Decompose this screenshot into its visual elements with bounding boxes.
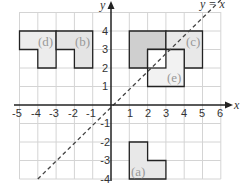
svg-text:-3: -3 — [100, 154, 110, 166]
svg-text:3: 3 — [102, 43, 108, 55]
svg-text:-4: -4 — [100, 173, 110, 185]
svg-text:4: 4 — [181, 107, 187, 119]
svg-text:-4: -4 — [31, 107, 41, 119]
svg-text:5: 5 — [199, 107, 205, 119]
shape-b-label: (b) — [75, 34, 90, 49]
svg-text:-1: -1 — [86, 107, 96, 119]
x-tick-labels: -5 -4 -3 -2 -1 1 2 3 4 5 6 — [12, 107, 223, 119]
x-axis-label: x — [233, 98, 240, 112]
shape-a-label: (a) — [131, 164, 145, 179]
svg-text:2: 2 — [102, 62, 108, 74]
svg-text:3: 3 — [163, 107, 169, 119]
shape-c-label: (c) — [186, 34, 200, 49]
svg-text:-3: -3 — [49, 107, 59, 119]
svg-text:1: 1 — [102, 80, 108, 92]
svg-text:-1: -1 — [100, 117, 110, 129]
y-axis-label: y — [99, 0, 106, 12]
svg-text:-5: -5 — [12, 107, 22, 119]
shape-d-label: (d) — [38, 34, 53, 49]
mirror-line-label: y = x — [199, 0, 225, 11]
svg-text:4: 4 — [102, 25, 108, 37]
shape-b: (b) — [56, 31, 93, 68]
coordinate-grid-diagram: (d) (b) (c) (e) (a) y = x x y -5 -4 — [0, 0, 240, 188]
svg-text:1: 1 — [127, 107, 133, 119]
svg-text:6: 6 — [217, 107, 223, 119]
svg-text:-2: -2 — [68, 107, 78, 119]
svg-text:2: 2 — [145, 107, 151, 119]
shape-a: (a) — [129, 142, 166, 179]
shape-d: (d) — [20, 31, 57, 68]
shape-e-label: (e) — [167, 70, 181, 85]
svg-text:-2: -2 — [100, 136, 110, 148]
shape-e: (e) — [148, 50, 185, 87]
